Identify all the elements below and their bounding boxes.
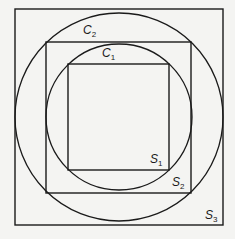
- nested-circles-squares-diagram: C2 C1 S1 S2 S3: [0, 0, 235, 239]
- label-c2: C2: [83, 23, 97, 39]
- label-s1: S1: [150, 152, 163, 168]
- label-s2: S2: [172, 175, 185, 191]
- label-c1: C1: [102, 46, 116, 62]
- label-s3: S3: [205, 208, 218, 224]
